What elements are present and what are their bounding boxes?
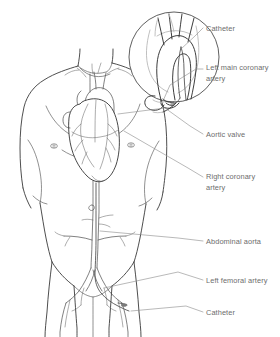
torso-outline <box>20 49 167 337</box>
label-aortic-valve: Aortic valve <box>206 130 245 141</box>
anatomical-diagram: Catheter Left main coronary artery Aorti… <box>0 0 280 337</box>
label-abdominal-aorta: Abdominal aorta <box>206 237 261 248</box>
label-left-main-coronary-artery: Left main coronary artery <box>206 63 269 84</box>
catheter-entry-marker <box>121 303 127 307</box>
label-left-femoral-artery: Left femoral artery <box>206 276 268 287</box>
nipple-right <box>128 143 135 147</box>
leader-abdominal-aorta <box>100 231 203 241</box>
leader-aortic-valve <box>118 108 203 134</box>
label-right-coronary-artery: Right coronary artery <box>206 172 255 193</box>
leader-catheter-bottom <box>131 306 203 312</box>
label-catheter-top: Catheter <box>206 24 235 35</box>
label-catheter-bottom: Catheter <box>206 308 235 319</box>
nipple-left <box>51 144 58 148</box>
leader-right-coronary <box>124 131 203 177</box>
aorta <box>55 181 135 337</box>
heart <box>63 63 132 182</box>
